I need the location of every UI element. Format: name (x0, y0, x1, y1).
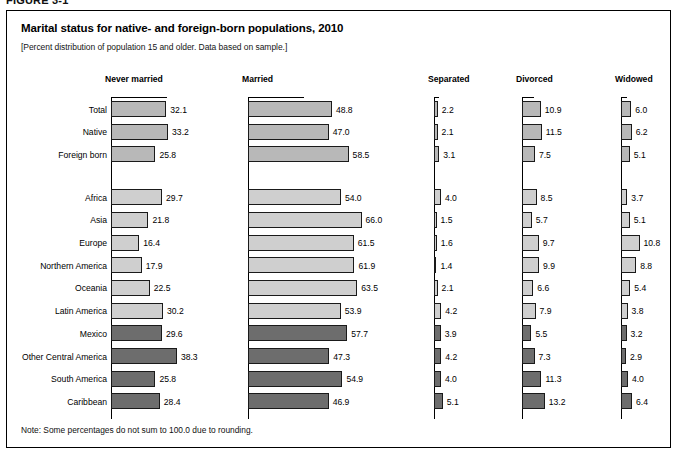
bar-value-label: 30.2 (167, 306, 184, 316)
bar (522, 146, 535, 162)
bar-value-label: 6.2 (636, 127, 648, 137)
bar (248, 393, 329, 409)
bar (621, 303, 628, 319)
column-header-never-married: Never married (105, 74, 163, 84)
bar (522, 393, 545, 409)
row-label-total: Total (7, 105, 107, 115)
chart-note: Note: Some percentages do not sum to 100… (21, 425, 253, 435)
bar-value-label: 46.9 (333, 397, 350, 407)
bar-value-label: 11.3 (545, 374, 561, 384)
bar-value-label: 4.0 (445, 193, 457, 203)
column-header-widowed: Widowed (615, 74, 653, 84)
bar-value-label: 2.9 (630, 352, 642, 362)
bar-value-label: 1.4 (440, 261, 452, 271)
bar (522, 371, 541, 387)
bar (434, 393, 443, 409)
bar (522, 212, 532, 228)
bar (111, 235, 139, 251)
bar-value-label: 5.1 (447, 397, 459, 407)
bar (621, 189, 627, 205)
bar (621, 371, 628, 387)
axis-tick-widowed (621, 97, 627, 98)
row-label-south-america: South America (7, 374, 107, 384)
bar (111, 146, 155, 162)
bar (111, 124, 168, 140)
bar-value-label: 5.1 (634, 150, 646, 160)
bar-value-label: 58.5 (353, 150, 370, 160)
chart-plot-area: Never marriedMarriedSeparatedDivorcedWid… (7, 11, 672, 449)
axis-tick-divorced (522, 97, 534, 98)
axis-tick-separated (434, 97, 439, 98)
bar-value-label: 9.9 (543, 261, 555, 271)
bar (111, 303, 163, 319)
bar (111, 280, 150, 296)
bar-value-label: 2.1 (442, 283, 454, 293)
bar-value-label: 61.9 (358, 261, 375, 271)
bar-value-label: 2.2 (442, 105, 454, 115)
bar (621, 101, 631, 117)
bar-value-label: 28.4 (164, 397, 181, 407)
bar-value-label: 2.1 (442, 127, 454, 137)
column-header-divorced: Divorced (516, 74, 553, 84)
bar-value-label: 5.1 (634, 215, 646, 225)
bar-value-label: 3.7 (631, 193, 643, 203)
bar (434, 235, 437, 251)
row-label-native: Native (7, 127, 107, 137)
bar (434, 303, 441, 319)
bar (248, 303, 341, 319)
bar-value-label: 54.0 (345, 193, 362, 203)
bar-value-label: 33.2 (172, 127, 189, 137)
column-header-married: Married (242, 74, 273, 84)
bar (621, 393, 632, 409)
bar-value-label: 22.5 (154, 283, 171, 293)
bar (522, 101, 541, 117)
bar-value-label: 21.8 (152, 215, 169, 225)
bar-value-label: 13.2 (549, 397, 566, 407)
bar (111, 101, 166, 117)
bar-value-label: 25.8 (159, 374, 176, 384)
bar-value-label: 16.4 (143, 238, 160, 248)
bar (522, 235, 539, 251)
row-label-asia: Asia (7, 215, 107, 225)
bar (621, 146, 630, 162)
bar (248, 124, 329, 140)
bar (522, 303, 536, 319)
bar-value-label: 53.9 (345, 306, 362, 316)
row-label-mexico: Mexico (7, 329, 107, 339)
bar (248, 280, 357, 296)
row-label-africa: Africa (7, 193, 107, 203)
bar-value-label: 6.0 (635, 105, 647, 115)
bar-value-label: 4.0 (445, 374, 457, 384)
bar-value-label: 6.4 (636, 397, 648, 407)
bar-value-label: 1.6 (441, 238, 453, 248)
bar (522, 348, 535, 364)
bar (111, 371, 155, 387)
bar (111, 257, 142, 273)
row-label-europe: Europe (7, 238, 107, 248)
bar-value-label: 47.3 (333, 352, 350, 362)
bar (522, 124, 542, 140)
row-label-other-central-america: Other Central America (7, 352, 107, 362)
axis-tick-never-married (111, 97, 167, 98)
bar-value-label: 6.6 (537, 283, 549, 293)
bar-value-label: 38.3 (181, 352, 198, 362)
bar-value-label: 10.9 (545, 105, 562, 115)
bar-value-label: 63.5 (361, 283, 378, 293)
bar-value-label: 17.9 (146, 261, 163, 271)
bar-value-label: 7.5 (539, 150, 551, 160)
figure-number-label: FIGURE 3-1 (6, 0, 69, 6)
bar (621, 212, 630, 228)
bar (248, 325, 347, 341)
bar (434, 212, 437, 228)
bar (434, 325, 441, 341)
bar-value-label: 61.5 (358, 238, 375, 248)
bar (248, 212, 362, 228)
bar-value-label: 7.3 (539, 352, 551, 362)
bar-value-label: 1.5 (441, 215, 453, 225)
bar (522, 280, 533, 296)
bar (248, 189, 341, 205)
bar (111, 348, 177, 364)
bar-value-label: 4.2 (445, 352, 457, 362)
bar (434, 189, 441, 205)
bar (248, 101, 332, 117)
